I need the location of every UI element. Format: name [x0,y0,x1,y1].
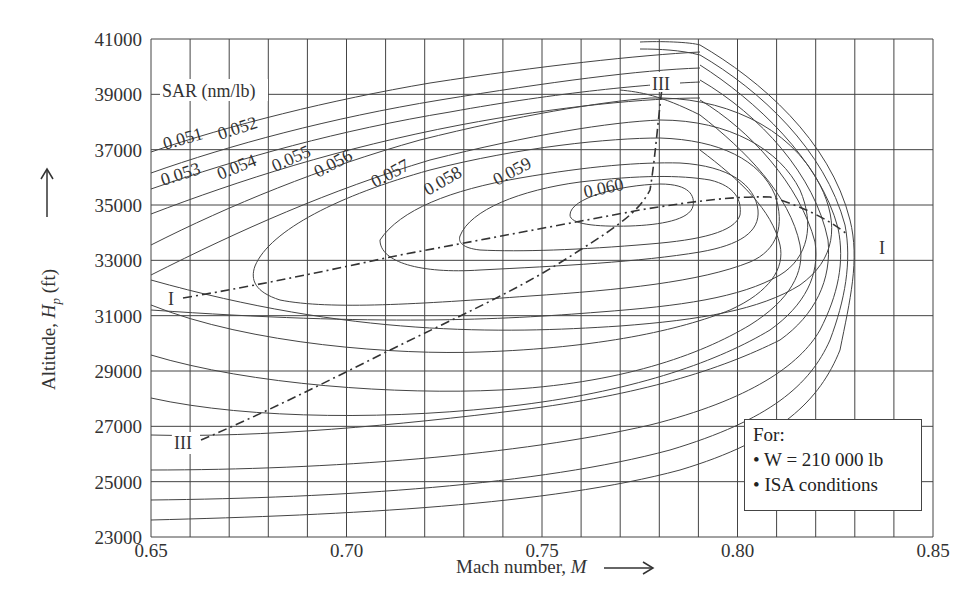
svg-text:0.056: 0.056 [310,145,355,182]
y-tick-label: 39000 [95,84,143,105]
y-tick-label: 41000 [95,29,143,50]
x-tick-label: 0.65 [134,540,167,561]
line-I-label-left: I [168,289,174,309]
y-tick-label: 27000 [95,416,143,437]
line-I [183,197,848,298]
line-III-label-left: III [174,433,192,453]
y-tick-label: 31000 [95,306,143,327]
note-item-isa: • ISA conditions [753,472,921,497]
y-tick-label: 25000 [95,472,143,493]
x-axis-arrow-icon [604,562,653,574]
y-axis-arrow-icon [41,169,53,217]
y-tick-label: 29000 [95,361,143,382]
x-tick-label: 0.85 [916,540,949,561]
y-axis-title: Altitude, Hp (ft) [38,269,63,390]
y-tick-label: 37000 [95,140,143,161]
y-tick-label: 33000 [95,250,143,271]
note-heading: For: [753,422,921,447]
line-III-label-top: III [652,74,670,94]
line-I-label-right: I [879,238,885,258]
x-axis-title: Mach number, M [456,556,588,577]
svg-text:0.057: 0.057 [367,155,412,192]
sar-contour-chart: SAR (nm/lb) 0.051 0.052 0.053 0.054 0.05… [0,0,975,606]
y-axis-ticks: 2300025000270002900031000330003500037000… [95,29,143,548]
x-tick-label: 0.70 [330,540,363,561]
svg-text:0.052: 0.052 [215,112,260,144]
sar-title: SAR (nm/lb) [162,81,256,102]
svg-text:0.059: 0.059 [489,153,534,190]
svg-text:0.060: 0.060 [582,174,626,202]
note-item-weight: • W = 210 000 lb [753,447,921,472]
contour-0.054 [151,98,700,214]
y-tick-label: 35000 [95,195,143,216]
conditions-note: For: • W = 210 000 lb • ISA conditions [744,419,922,511]
svg-text:0.058: 0.058 [420,162,465,200]
x-tick-label: 0.80 [721,540,754,561]
svg-text:0.053: 0.053 [158,158,203,190]
